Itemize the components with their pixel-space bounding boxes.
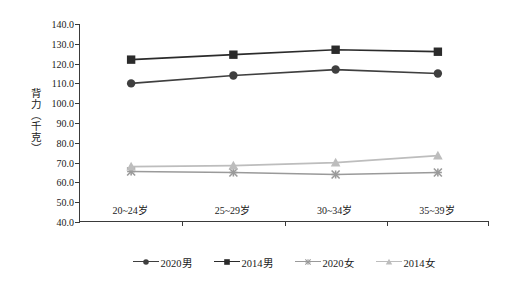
data-point-square — [127, 55, 135, 63]
data-point-circle — [143, 259, 149, 265]
legend-item[interactable]: 2014女 — [376, 255, 435, 270]
y-tick-mark — [75, 24, 80, 25]
y-tick-label: 90.0 — [34, 118, 74, 129]
legend-marker-circle-icon — [142, 258, 150, 266]
series-line — [131, 50, 438, 60]
x-tick-label: 20~24岁 — [112, 202, 147, 217]
data-point-circle — [229, 71, 237, 79]
legend-marker-triangle-icon — [385, 258, 393, 266]
y-tick-mark — [75, 202, 80, 203]
y-tick-mark — [75, 182, 80, 183]
y-tick-mark — [75, 44, 80, 45]
y-tick-mark — [75, 143, 80, 144]
data-point-square — [229, 50, 237, 58]
x-tick-mark — [488, 221, 489, 226]
x-tick-label: 25~29岁 — [215, 202, 250, 217]
y-tick-mark — [75, 83, 80, 84]
y-tick-label: 110.0 — [34, 78, 74, 89]
legend-item[interactable]: 2014男 — [214, 255, 273, 270]
data-point-circle — [434, 69, 442, 77]
data-point-triangle — [385, 259, 391, 265]
x-tick-label: 30~34岁 — [317, 202, 352, 217]
y-axis-tick-labels: 140.0130.0120.0110.0100.090.080.070.060.… — [30, 0, 74, 282]
data-point-circle — [331, 65, 339, 73]
y-tick-label: 70.0 — [34, 157, 74, 168]
legend-swatch-square-icon — [214, 256, 240, 268]
legend-swatch-x-icon — [295, 256, 321, 268]
data-point-circle — [127, 79, 135, 87]
y-tick-label: 80.0 — [34, 137, 74, 148]
y-tick-label: 120.0 — [34, 58, 74, 69]
data-point-square — [224, 259, 230, 265]
legend-label: 2020女 — [323, 255, 354, 270]
data-point-square — [434, 48, 442, 56]
y-tick-label: 130.0 — [34, 38, 74, 49]
y-tick-label: 140.0 — [34, 19, 74, 30]
legend-label: 2014女 — [404, 255, 435, 270]
x-tick-label: 35~39岁 — [419, 202, 454, 217]
line-chart: 背力（千克） 140.0130.0120.0110.0100.090.080.0… — [0, 0, 506, 282]
y-tick-label: 40.0 — [34, 217, 74, 228]
series-line — [131, 172, 438, 175]
y-tick-label: 50.0 — [34, 197, 74, 208]
y-tick-mark — [75, 64, 80, 65]
data-point-x — [332, 170, 340, 178]
legend-swatch-circle-icon — [133, 256, 159, 268]
y-tick-mark — [75, 222, 80, 223]
plot-area — [79, 24, 488, 222]
y-tick-label: 100.0 — [34, 98, 74, 109]
data-point-x — [305, 259, 310, 264]
legend-marker-x-icon — [304, 258, 312, 266]
x-tick-mark — [387, 221, 388, 226]
series-line — [131, 156, 438, 167]
series-line — [131, 70, 438, 84]
data-point-x — [229, 169, 237, 177]
x-tick-mark — [285, 221, 286, 226]
chart-legend: 2020男2014男2020女2014女 — [79, 252, 488, 272]
data-point-x — [434, 169, 442, 177]
y-tick-mark — [75, 163, 80, 164]
y-tick-mark — [75, 103, 80, 104]
legend-label: 2014男 — [242, 255, 273, 270]
legend-swatch-triangle-icon — [376, 256, 402, 268]
legend-item[interactable]: 2020女 — [295, 255, 354, 270]
legend-item[interactable]: 2020男 — [133, 255, 192, 270]
legend-marker-square-icon — [223, 258, 231, 266]
series-layer — [80, 24, 489, 222]
legend-label: 2020男 — [161, 255, 192, 270]
y-tick-mark — [75, 123, 80, 124]
y-tick-label: 60.0 — [34, 177, 74, 188]
x-tick-mark — [182, 221, 183, 226]
data-point-square — [331, 46, 339, 54]
